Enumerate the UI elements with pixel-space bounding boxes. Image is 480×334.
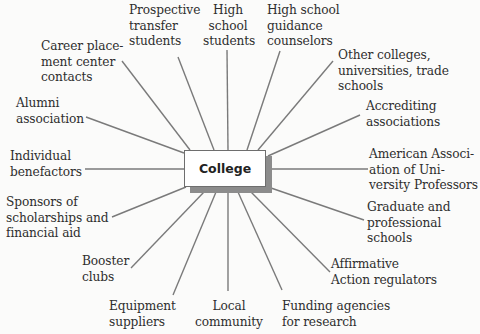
line-funding-agencies	[238, 192, 282, 290]
line-other-colleges	[258, 61, 333, 150]
node-booster-clubs: Booster clubs	[82, 254, 129, 285]
line-prospective-transfer	[178, 57, 214, 150]
node-equipment-suppliers: Equipment suppliers	[109, 299, 176, 330]
node-other-colleges: Other colleges, universities, trade scho…	[338, 48, 449, 95]
node-graduate-schools: Graduate and professional schools	[367, 200, 450, 247]
line-career-placement	[122, 61, 190, 150]
node-career-placement: Career place- ment center contacts	[41, 39, 123, 86]
node-aaup: American Associ- ation of Uni- versity P…	[369, 147, 478, 194]
node-alumni: Alumni association	[16, 96, 84, 127]
college-node: College	[184, 150, 266, 187]
line-equipment-suppliers	[173, 192, 216, 295]
node-individual-benefactors: Individual benefactors	[10, 149, 82, 180]
line-high-school-students	[227, 50, 228, 150]
node-prospective-transfer: Prospective transfer students	[129, 3, 200, 50]
line-sponsors	[112, 187, 186, 217]
node-local-community: Local community	[190, 299, 268, 330]
college-label: College	[199, 161, 251, 176]
node-affirmative-action: Affirmative Action regulators	[331, 257, 437, 288]
node-funding-agencies: Funding agencies for research	[282, 299, 390, 330]
node-sponsors: Sponsors of scholarships and financial a…	[6, 195, 109, 242]
node-accrediting: Accrediting associations	[366, 99, 440, 130]
node-high-school-students: High school students	[203, 3, 253, 50]
line-graduate-schools	[271, 188, 364, 220]
node-hs-guidance: High school guidance counselors	[267, 3, 339, 50]
line-hs-guidance	[247, 51, 280, 150]
line-booster-clubs	[131, 192, 204, 268]
